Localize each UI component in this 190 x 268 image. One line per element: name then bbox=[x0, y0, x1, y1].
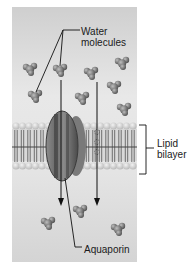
aquaporin-protein bbox=[46, 111, 86, 181]
lipid-label-line2: bilayer bbox=[157, 149, 186, 160]
water-label-line1: Water bbox=[81, 26, 126, 37]
water-molecules-label: Water molecules bbox=[81, 26, 126, 48]
aquaporin-label: Aquaporin bbox=[84, 244, 130, 255]
lipid-bilayer-label: Lipid bilayer bbox=[157, 138, 186, 160]
lipid-label-line1: Lipid bbox=[157, 138, 186, 149]
lipid-bilayer-bracket bbox=[139, 125, 154, 174]
aquaporin-diagram: Water molecules Lipid bilayer Aquaporin bbox=[0, 0, 190, 268]
water-label-line2: molecules bbox=[81, 37, 126, 48]
